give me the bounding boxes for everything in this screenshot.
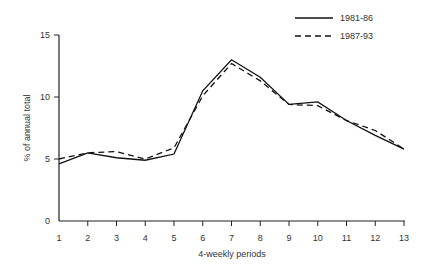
x-tick-label: 9	[286, 233, 291, 243]
series-lines	[59, 60, 404, 164]
legend-label: 1987-93	[340, 31, 373, 41]
x-tick-label: 13	[399, 233, 409, 243]
x-tick-label: 8	[258, 233, 263, 243]
x-tick-label: 10	[313, 233, 323, 243]
legend: 1981-861987-93	[295, 13, 373, 41]
y-axis-label: % of annual total	[22, 94, 32, 161]
x-tick-label: 6	[200, 233, 205, 243]
y-tick-label: 5	[45, 154, 50, 164]
series-line-1987-93	[59, 64, 404, 159]
x-axis-label: 4-weekly periods	[198, 249, 266, 259]
y-tick-label: 0	[45, 216, 50, 226]
line-chart: 05101512345678910111213 1981-861987-93 4…	[0, 0, 427, 273]
x-tick-label: 2	[85, 233, 90, 243]
x-tick-label: 1	[56, 233, 61, 243]
x-tick-label: 12	[370, 233, 380, 243]
series-line-1981-86	[59, 60, 404, 164]
x-tick-label: 7	[229, 233, 234, 243]
x-tick-label: 3	[114, 233, 119, 243]
y-tick-label: 10	[40, 92, 50, 102]
legend-label: 1981-86	[340, 13, 373, 23]
x-tick-label: 4	[143, 233, 148, 243]
x-tick-label: 5	[171, 233, 176, 243]
y-tick-label: 15	[40, 30, 50, 40]
x-tick-label: 11	[342, 233, 351, 243]
axes: 05101512345678910111213	[40, 30, 409, 243]
